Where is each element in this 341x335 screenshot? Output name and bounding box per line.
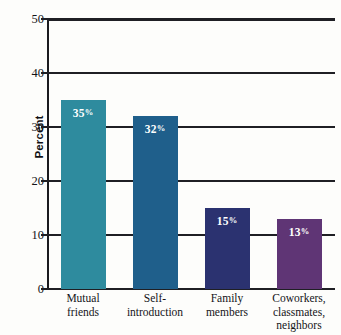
x-axis-label: Familymembers [187, 292, 267, 319]
x-axis-label-line: Family [187, 292, 267, 306]
bar: 35% [61, 100, 106, 289]
y-axis-tick-labels: 50403020100 [14, 0, 44, 335]
bar-value-label: 32% [133, 123, 178, 135]
x-axis-label-line: classmates, [259, 306, 339, 320]
x-axis-category-labels: MutualfriendsSelf-introductionFamilymemb… [47, 292, 335, 335]
x-axis-label-line: friends [43, 306, 123, 320]
x-axis-label-line: Self- [115, 292, 195, 306]
x-axis-label: Coworkers,classmates,neighbors [259, 292, 339, 333]
bar-value-label: 35% [61, 107, 106, 119]
x-axis-label-line: Mutual [43, 292, 123, 306]
bar: 32% [133, 116, 178, 289]
bar-value-label: 15% [205, 215, 250, 227]
bar: 13% [277, 219, 322, 289]
plot-area: 35%32%15%13% [47, 19, 335, 289]
bar-value-label: 13% [277, 226, 322, 238]
x-axis-label: Self-introduction [115, 292, 195, 319]
bar: 15% [205, 208, 250, 289]
x-axis-label-line: introduction [115, 306, 195, 320]
x-axis-label-line: members [187, 306, 267, 320]
x-axis-label: Mutualfriends [43, 292, 123, 319]
bar-chart-figure: Percent 50403020100 35%32%15%13% Mutualf… [0, 0, 341, 335]
x-axis-label-line: Coworkers, [259, 292, 339, 306]
bars-container: 35%32%15%13% [47, 19, 335, 289]
x-axis-label-line: neighbors [259, 319, 339, 333]
